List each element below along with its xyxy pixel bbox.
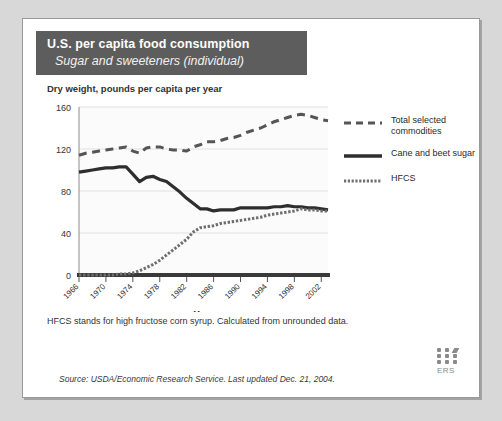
svg-text:2002: 2002 (304, 282, 323, 301)
ers-logo-dot (437, 348, 441, 352)
chart-title-subtitle: Sugar and sweeteners (individual) (47, 53, 307, 70)
legend-label-total: Total selected commodities (391, 115, 446, 137)
chart-footnote: HFCS stands for high fructose corn syrup… (47, 315, 387, 328)
svg-text:1974: 1974 (115, 282, 134, 301)
y-axis-units-label: Dry weight, pounds per capita per year (47, 83, 222, 94)
ers-logo-dot-row (437, 348, 463, 352)
legend-swatch-dashed (343, 116, 383, 130)
svg-text:1978: 1978 (142, 282, 161, 301)
svg-text:80: 80 (61, 187, 71, 197)
screenshot-root: U.S. per capita food consumption Sugar a… (0, 0, 502, 421)
svg-text:1990: 1990 (223, 282, 242, 301)
svg-text:40: 40 (61, 229, 71, 239)
chart-source-line: Source: USDA/Economic Research Service. … (59, 374, 335, 384)
ers-logo-slash-icon (453, 348, 457, 352)
ers-logo-dot-grid (437, 348, 463, 364)
ers-logo-dot-row (437, 354, 463, 358)
ers-logo-dot (453, 354, 457, 358)
ers-logo-dot (437, 360, 441, 364)
legend-swatch-solid (343, 149, 383, 163)
svg-text:120: 120 (56, 145, 71, 155)
ers-logo-dot (437, 354, 441, 358)
svg-text:Year: Year (193, 308, 213, 312)
svg-text:0: 0 (66, 271, 71, 281)
ers-logo-dot (445, 354, 449, 358)
legend-item-total: Total selected commodities (343, 115, 502, 137)
svg-text:1994: 1994 (250, 282, 269, 301)
ers-logo-dot (453, 360, 457, 364)
legend-item-cane-beet-sugar: Cane and beet sugar (343, 148, 502, 162)
chart-card: U.S. per capita food consumption Sugar a… (22, 18, 480, 398)
chart-plot-area: 0408012016019661970197419781982198619901… (33, 97, 333, 312)
ers-logo-dot (445, 348, 449, 352)
ers-logo-dot (445, 360, 449, 364)
legend-label-cane-beet-sugar: Cane and beet sugar (391, 148, 475, 159)
ers-logo: ERS (437, 348, 471, 375)
svg-text:160: 160 (56, 103, 71, 113)
legend-label-hfcs: HFCS (391, 173, 416, 184)
line-chart-svg: 0408012016019661970197419781982198619901… (33, 97, 333, 312)
chart-title-main: U.S. per capita food consumption (47, 36, 307, 53)
svg-text:1970: 1970 (88, 282, 107, 301)
chart-legend: Total selected commodities Cane and beet… (343, 115, 502, 198)
legend-swatch-dotted (343, 174, 383, 188)
chart-title-bar: U.S. per capita food consumption Sugar a… (36, 31, 307, 75)
ers-logo-text: ERS (437, 366, 471, 375)
svg-text:1986: 1986 (196, 282, 215, 301)
ers-logo-dot-row (437, 360, 463, 364)
legend-item-hfcs: HFCS (343, 173, 502, 187)
svg-text:1998: 1998 (277, 282, 296, 301)
svg-text:1982: 1982 (169, 282, 188, 301)
svg-text:1966: 1966 (61, 282, 80, 301)
